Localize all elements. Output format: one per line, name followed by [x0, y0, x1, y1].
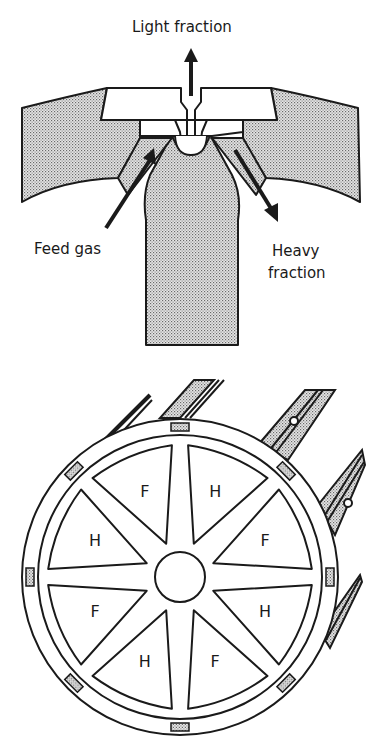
heavy-fraction-label-line1: Heavy [272, 242, 319, 260]
central-stem [145, 135, 239, 345]
light-fraction-label: Light fraction [132, 18, 232, 36]
pipe-top [160, 380, 224, 418]
top-diagram [22, 88, 360, 345]
segment-label: H [139, 652, 151, 671]
segment-label: F [211, 652, 220, 671]
feed-gas-label: Feed gas [34, 240, 101, 258]
segment-label: F [260, 531, 269, 550]
segment-label: H [89, 531, 101, 550]
segment-label: F [140, 482, 149, 501]
ring-connector [171, 723, 189, 731]
ring-connector [326, 568, 334, 586]
diagram-canvas: HFHFHFHF [0, 0, 378, 746]
segment-label: H [209, 482, 221, 501]
outer-ring [22, 419, 338, 735]
heavy-fraction-label-line2: fraction [268, 264, 326, 282]
light-fraction-arrow-icon [184, 48, 198, 96]
segment-label: H [259, 602, 271, 621]
ring-connector [171, 423, 189, 431]
segment-label: F [90, 602, 99, 621]
ring-connector [26, 568, 34, 586]
